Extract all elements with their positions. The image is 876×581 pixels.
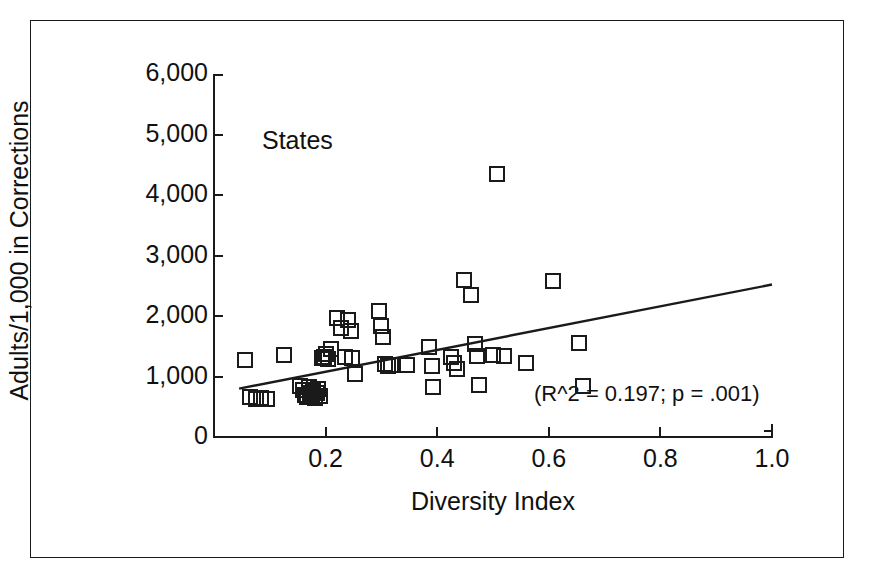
data-point-marker xyxy=(383,357,399,373)
data-point-marker xyxy=(575,378,591,394)
data-point-marker xyxy=(449,361,465,377)
y-axis-tick-label: 2,000 xyxy=(60,302,208,327)
data-point-marker xyxy=(259,391,275,407)
data-point-marker xyxy=(237,352,253,368)
data-point-marker xyxy=(456,272,472,288)
y-axis-tick-label: 1,000 xyxy=(60,363,208,388)
data-point-marker xyxy=(545,273,561,289)
data-point-marker xyxy=(469,348,485,364)
x-axis-title: Diversity Index xyxy=(214,487,772,516)
figure-container: 01,0002,0003,0004,0005,0006,000 0.20.40.… xyxy=(0,0,876,581)
data-point-marker xyxy=(425,379,441,395)
x-axis-tick-label: 0.8 xyxy=(620,446,700,471)
data-point-marker xyxy=(399,357,415,373)
y-axis-tick-label: 4,000 xyxy=(60,181,208,206)
y-axis-tick-label: 3,000 xyxy=(60,242,208,267)
data-point-marker xyxy=(421,339,437,355)
data-point-marker xyxy=(496,348,512,364)
data-point-marker xyxy=(518,355,534,371)
data-point-marker xyxy=(471,377,487,393)
data-point-marker xyxy=(312,388,328,404)
data-point-marker xyxy=(344,350,360,366)
data-point-marker xyxy=(276,347,292,363)
y-axis-tick-label: 5,000 xyxy=(60,121,208,146)
x-axis-tick-label: 0.2 xyxy=(286,446,366,471)
data-point-marker xyxy=(571,335,587,351)
data-point-marker xyxy=(375,329,391,345)
data-point-marker xyxy=(424,358,440,374)
y-axis-title: Adults/1,000 in Corrections xyxy=(5,36,34,466)
y-axis-tick-label: 0 xyxy=(60,423,208,448)
data-point-marker xyxy=(463,287,479,303)
x-axis-tick-label: 0.6 xyxy=(509,446,589,471)
plot-area xyxy=(214,74,772,437)
data-point-marker xyxy=(347,366,363,382)
data-point-marker xyxy=(343,323,359,339)
data-point-marker xyxy=(489,166,505,182)
x-axis-tick-label: 1.0 xyxy=(732,446,812,471)
x-axis-tick-label: 0.4 xyxy=(397,446,477,471)
y-axis-tick-label: 6,000 xyxy=(60,60,208,85)
